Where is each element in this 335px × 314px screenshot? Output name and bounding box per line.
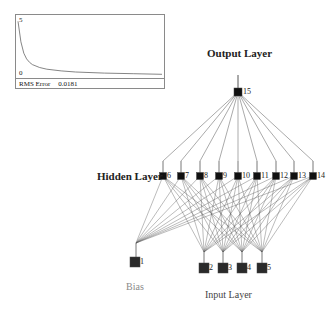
connection-edge <box>242 176 257 252</box>
connection-edge <box>136 176 181 243</box>
output-layer-label: Output Layer <box>207 47 272 59</box>
input-node <box>257 263 267 273</box>
input-node <box>237 263 247 273</box>
hidden-node-number: 6 <box>167 172 171 180</box>
connection-edge <box>136 176 257 243</box>
hidden-node <box>235 173 242 180</box>
connection-edge <box>219 92 238 161</box>
bias-label: Bias <box>126 281 144 292</box>
neural-network-diagram <box>0 0 335 314</box>
hidden-node-number: 13 <box>298 172 306 180</box>
connection-edge <box>136 176 200 243</box>
hidden-node <box>310 173 317 180</box>
connection-edge <box>136 176 163 243</box>
hidden-node-number: 8 <box>204 172 208 180</box>
hidden-node-number: 7 <box>185 172 189 180</box>
output-node <box>234 88 242 96</box>
hidden-node <box>291 173 298 180</box>
hidden-node-number: 10 <box>242 172 250 180</box>
hidden-node <box>216 173 223 180</box>
input-node-number: 2 <box>209 264 213 272</box>
connection-edge <box>200 92 238 161</box>
connection-edge <box>136 176 294 243</box>
hidden-node <box>178 173 185 180</box>
bias-node-number: 1 <box>140 258 144 266</box>
hidden-node <box>197 173 204 180</box>
input-node <box>218 263 228 273</box>
connection-edge <box>257 176 262 252</box>
connection-edge <box>163 176 204 252</box>
input-node <box>199 263 209 273</box>
hidden-node <box>273 173 280 180</box>
input-node-number: 5 <box>267 264 271 272</box>
connection-edge <box>238 92 257 161</box>
connection-edge <box>163 176 242 252</box>
connection-edge <box>238 92 313 161</box>
connection-edge <box>163 92 238 161</box>
connection-edge <box>262 176 276 252</box>
input-node-number: 3 <box>228 264 232 272</box>
connection-edge <box>238 92 276 161</box>
hidden-layer-label: Hidden Layer <box>97 170 163 182</box>
connection-edge <box>181 92 238 161</box>
hidden-node-number: 12 <box>280 172 288 180</box>
connection-edge <box>262 176 313 252</box>
hidden-node <box>254 173 261 180</box>
input-node-number: 4 <box>247 264 251 272</box>
connection-edge <box>238 92 294 161</box>
hidden-node-number: 9 <box>223 172 227 180</box>
connection-edge <box>136 176 238 243</box>
input-layer-label: Input Layer <box>205 289 252 300</box>
hidden-node-number: 14 <box>317 172 325 180</box>
output-node-number: 15 <box>243 88 251 96</box>
hidden-node-number: 11 <box>261 172 269 180</box>
bias-node <box>130 257 140 267</box>
